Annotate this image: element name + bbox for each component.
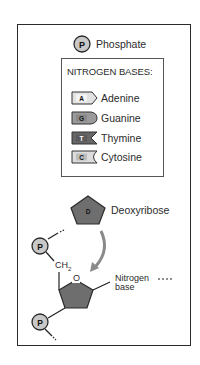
cytosine-icon: C — [72, 151, 97, 163]
adenine-icon: A — [72, 92, 97, 104]
phosphate-bottom-icon: P — [32, 314, 56, 340]
phosphate-top-icon: P — [32, 230, 64, 261]
diagram-graphics: P A G T C D P — [0, 0, 200, 365]
thymine-icon: T — [72, 132, 97, 144]
svg-text:A: A — [79, 95, 84, 102]
svg-text:P: P — [37, 242, 43, 252]
svg-text:G: G — [79, 115, 84, 122]
adenine-label: Adenine — [101, 93, 140, 104]
nitrogen-base-label-line2: base — [115, 283, 135, 292]
phosphate-legend-icon: P — [74, 36, 90, 52]
deoxyribose-label: Deoxyribose — [111, 205, 169, 216]
curved-arrow-icon — [90, 231, 105, 272]
svg-text:D: D — [86, 208, 91, 215]
nitrogen-bases-title: NITROGEN BASES: — [67, 67, 153, 77]
oxygen-label: O — [73, 274, 80, 283]
thymine-label: Thymine — [101, 133, 141, 144]
cytosine-label: Cytosine — [101, 152, 142, 163]
phosphate-label: Phosphate — [96, 39, 146, 50]
svg-text:P: P — [79, 40, 85, 50]
ch2-label: CH2 — [55, 261, 71, 272]
guanine-icon: G — [72, 112, 97, 124]
deoxyribose-legend-icon: D — [71, 196, 105, 224]
guanine-label: Guanine — [101, 113, 141, 124]
svg-text:C: C — [79, 154, 84, 161]
svg-text:T: T — [80, 135, 84, 142]
svg-text:P: P — [37, 318, 43, 328]
